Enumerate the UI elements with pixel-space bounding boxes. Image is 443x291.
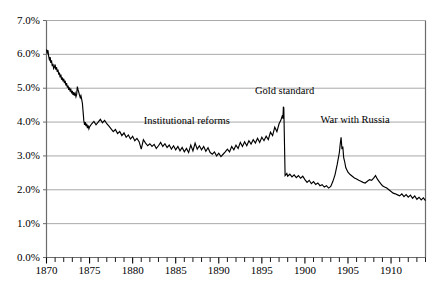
y-axis-tick-label: 7.0% xyxy=(0,15,40,26)
x-axis-tick-label: 1875 xyxy=(67,265,113,276)
x-axis-tick-label: 1910 xyxy=(368,265,414,276)
x-axis-tick-label: 1890 xyxy=(196,265,242,276)
x-axis-tick-label: 1895 xyxy=(239,265,285,276)
annotation-gold-standard: Gold standard xyxy=(255,85,314,96)
y-axis-tick-label: 5.0% xyxy=(0,82,40,93)
x-axis-tick-label: 1870 xyxy=(24,265,70,276)
y-axis-tick-label: 0.0% xyxy=(0,252,40,263)
y-axis-tick-label: 3.0% xyxy=(0,150,40,161)
annotation-war-with-russia: War with Russia xyxy=(320,114,389,125)
y-axis-tick-label: 1.0% xyxy=(0,218,40,229)
y-axis-tick-label: 6.0% xyxy=(0,48,40,59)
x-axis-tick-label: 1885 xyxy=(153,265,199,276)
annotation-institutional-reforms: Institutional reforms xyxy=(144,115,230,126)
x-axis-tick-label: 1880 xyxy=(110,265,156,276)
y-axis-tick-label: 4.0% xyxy=(0,116,40,127)
x-axis-tick-label: 1905 xyxy=(325,265,371,276)
y-axis-tick-label: 2.0% xyxy=(0,184,40,195)
chart-plot-area xyxy=(0,0,443,291)
chart-container: 7.0%6.0%5.0%4.0%3.0%2.0%1.0%0.0%18701875… xyxy=(0,0,443,291)
x-axis-tick-label: 1900 xyxy=(282,265,328,276)
